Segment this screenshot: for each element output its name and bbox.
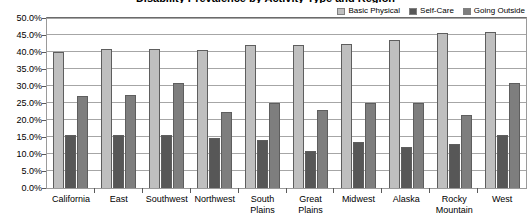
x-axis-tick-mark bbox=[191, 188, 239, 193]
chart-legend: Basic PhysicalSelf-CareGoing Outside bbox=[337, 6, 525, 16]
x-axis-tick-mark bbox=[430, 188, 478, 193]
bar[interactable] bbox=[101, 49, 112, 188]
bar[interactable] bbox=[173, 83, 184, 188]
bar[interactable] bbox=[365, 103, 376, 188]
bar-group bbox=[47, 18, 95, 188]
x-axis-tick-mark bbox=[95, 188, 143, 193]
bar[interactable] bbox=[149, 49, 160, 188]
bar[interactable] bbox=[221, 112, 232, 189]
x-axis-category-label: South Plains bbox=[239, 194, 287, 220]
bar-group bbox=[334, 18, 382, 188]
x-axis-tick-mark bbox=[143, 188, 191, 193]
x-axis-ticks bbox=[47, 188, 526, 193]
legend-item-0[interactable]: Basic Physical bbox=[337, 6, 400, 16]
bar-group bbox=[430, 18, 478, 188]
y-axis-tick-label: 30.0% bbox=[16, 81, 42, 91]
y-axis-tick-label: 25.0% bbox=[16, 98, 42, 108]
legend-item-1[interactable]: Self-Care bbox=[409, 6, 454, 16]
x-axis-category-label: Rocky Mountain bbox=[430, 194, 478, 220]
y-axis: 0.0%5.0%10.0%15.0%20.0%25.0%30.0%35.0%40… bbox=[0, 17, 42, 189]
y-axis-tick-label: 35.0% bbox=[16, 64, 42, 74]
bar-group bbox=[478, 18, 526, 188]
bar-group bbox=[143, 18, 191, 188]
y-axis-tick-label: 10.0% bbox=[16, 149, 42, 159]
bar[interactable] bbox=[53, 52, 64, 188]
x-axis-category-label: West bbox=[478, 194, 526, 220]
legend-label: Going Outside bbox=[474, 6, 525, 16]
bar[interactable] bbox=[245, 45, 256, 188]
legend-swatch-icon bbox=[337, 8, 345, 15]
y-axis-tick-label: 15.0% bbox=[16, 132, 42, 142]
bar[interactable] bbox=[353, 142, 364, 188]
bar-group bbox=[191, 18, 239, 188]
legend-swatch-icon bbox=[463, 8, 471, 15]
x-axis-tick-mark bbox=[239, 188, 287, 193]
bar-group bbox=[382, 18, 430, 188]
x-axis-category-label: Great Plains bbox=[287, 194, 335, 220]
bar[interactable] bbox=[125, 95, 136, 188]
bar-group bbox=[239, 18, 287, 188]
legend-label: Self-Care bbox=[420, 6, 454, 16]
bar[interactable] bbox=[437, 33, 448, 188]
legend-label: Basic Physical bbox=[348, 6, 400, 16]
bar-chart: Disability Prevalence by Activity Type a… bbox=[0, 0, 531, 221]
x-axis-tick-mark bbox=[334, 188, 382, 193]
bar[interactable] bbox=[65, 135, 76, 188]
bar[interactable] bbox=[509, 83, 520, 188]
bar-group bbox=[287, 18, 335, 188]
y-axis-tick-label: 5.0% bbox=[21, 166, 42, 176]
y-axis-tick-label: 45.0% bbox=[16, 30, 42, 40]
bar[interactable] bbox=[485, 32, 496, 188]
bar[interactable] bbox=[197, 50, 208, 188]
x-axis-tick-mark bbox=[287, 188, 335, 193]
bar[interactable] bbox=[257, 140, 268, 188]
bar[interactable] bbox=[113, 135, 124, 188]
bar[interactable] bbox=[77, 96, 88, 188]
bar[interactable] bbox=[389, 40, 400, 188]
bar[interactable] bbox=[341, 44, 352, 189]
bar[interactable] bbox=[413, 103, 424, 188]
bar[interactable] bbox=[209, 138, 220, 188]
legend-swatch-icon bbox=[409, 8, 417, 15]
chart-title: Disability Prevalence by Activity Type a… bbox=[0, 0, 531, 3]
y-axis-tick-label: 50.0% bbox=[16, 13, 42, 23]
bar[interactable] bbox=[293, 45, 304, 188]
x-axis-category-label: Alaska bbox=[382, 194, 430, 220]
x-axis-category-label: East bbox=[95, 194, 143, 220]
bar[interactable] bbox=[497, 135, 508, 188]
y-axis-tick-label: 0.0% bbox=[21, 183, 42, 193]
x-axis-category-label: Midwest bbox=[334, 194, 382, 220]
y-axis-tick-label: 40.0% bbox=[16, 47, 42, 57]
x-axis-category-label: California bbox=[47, 194, 95, 220]
bar[interactable] bbox=[269, 103, 280, 188]
x-axis-tick-mark bbox=[47, 188, 95, 193]
bar[interactable] bbox=[461, 115, 472, 188]
x-axis-tick-mark bbox=[382, 188, 430, 193]
x-axis-category-label: Northwest bbox=[191, 194, 239, 220]
y-axis-tick-label: 20.0% bbox=[16, 115, 42, 125]
legend-item-2[interactable]: Going Outside bbox=[463, 6, 525, 16]
x-axis-category-label: Southwest bbox=[143, 194, 191, 220]
bar[interactable] bbox=[161, 135, 172, 188]
bar[interactable] bbox=[305, 151, 316, 188]
x-axis-tick-mark bbox=[478, 188, 526, 193]
bar[interactable] bbox=[401, 147, 412, 188]
bar-groups bbox=[47, 18, 526, 188]
bar-group bbox=[95, 18, 143, 188]
bar[interactable] bbox=[317, 110, 328, 188]
x-axis-labels: CaliforniaEastSouthwestNorthwestSouth Pl… bbox=[47, 194, 526, 220]
bar[interactable] bbox=[449, 144, 460, 188]
